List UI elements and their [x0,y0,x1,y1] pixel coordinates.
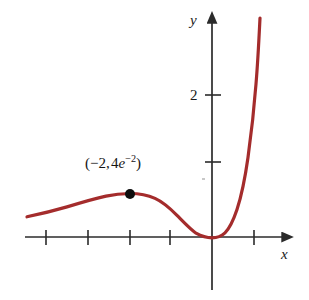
point-coordinate-label: (−2, 4e−2) [63,155,163,172]
coord-x-value: −2, [90,155,110,171]
y-axis-ticks [205,95,221,162]
graph-figure: y x 2 (−2, 4e−2) [0,0,309,300]
curve-x2-exp [27,18,260,238]
local-max-point-marker [125,189,135,199]
plot-canvas [0,0,309,300]
x-axis-label: x [281,247,288,262]
coord-y-exponent: −2 [125,153,136,164]
y-tick-label-2: 2 [190,88,198,103]
scan-speck-artifact [202,178,205,180]
paren-close: ) [136,155,141,171]
y-axis-label: y [190,13,197,28]
